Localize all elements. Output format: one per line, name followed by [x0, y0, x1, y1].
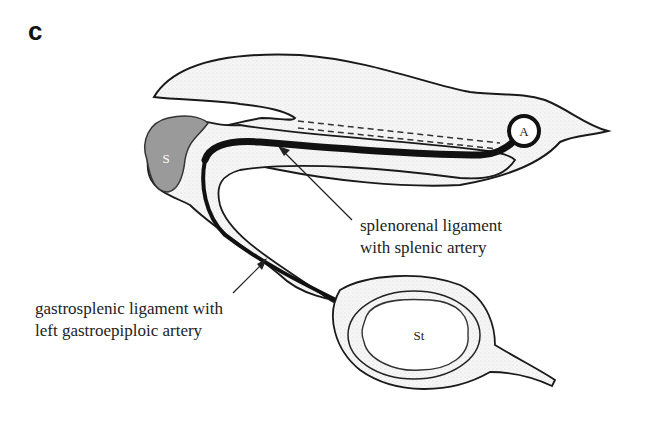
stomach-label: St	[414, 328, 425, 343]
gastroepiploic-artery	[203, 160, 340, 302]
stomach: St	[333, 276, 555, 389]
gastrosplenic-label: gastrosplenic ligament with left gastroe…	[35, 298, 223, 342]
kidney: A	[509, 116, 539, 146]
spleen-label: S	[162, 151, 169, 166]
splenorenal-label: splenorenal ligament with splenic artery	[360, 215, 502, 259]
kidney-label: A	[519, 124, 529, 139]
splenorenal-label-line2: with splenic artery	[360, 237, 502, 259]
gastrosplenic-label-line1: gastrosplenic ligament with	[35, 298, 223, 320]
anatomy-diagram: S A St	[0, 0, 651, 424]
splenorenal-label-line1: splenorenal ligament	[360, 215, 502, 237]
gastrosplenic-label-line2: left gastroepiploic artery	[35, 320, 223, 342]
